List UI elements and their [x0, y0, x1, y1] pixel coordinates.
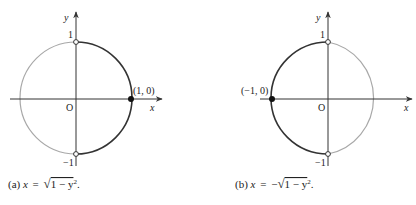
tick-bottom: −1	[63, 157, 74, 168]
origin-label: O	[66, 102, 73, 113]
open-point-bottom	[74, 152, 79, 157]
filled-point	[269, 96, 275, 102]
point-label: (−1, 0)	[241, 85, 268, 97]
panel-a: y x 1 −1 O (1, 0) (a) x = √1 − y2.	[8, 12, 162, 191]
x-axis-label: x	[403, 102, 409, 113]
origin-label: O	[318, 102, 325, 113]
filled-point	[128, 96, 134, 102]
right-semicircle-faded	[328, 42, 374, 154]
open-point-top	[326, 40, 331, 45]
point-label: (1, 0)	[133, 85, 155, 97]
x-axis-label: x	[149, 102, 155, 113]
figure-canvas: y x 1 −1 O (1, 0) (a) x = √1 − y2. y x 1…	[0, 0, 416, 205]
y-axis-label: y	[63, 12, 69, 23]
panel-b: y x 1 −1 O (−1, 0) (b) x = −√1 − y2.	[235, 12, 412, 191]
left-semicircle-highlighted	[271, 42, 328, 154]
open-point-top	[74, 40, 79, 45]
tick-bottom: −1	[315, 157, 326, 168]
caption-b: (b) x = −√1 − y2.	[235, 176, 314, 191]
left-semicircle-faded	[20, 42, 76, 154]
caption-a: (a) x = √1 − y2.	[8, 176, 80, 191]
tick-top: 1	[68, 29, 73, 40]
tick-top: 1	[320, 29, 325, 40]
y-axis-label: y	[315, 12, 321, 23]
open-point-bottom	[326, 152, 331, 157]
right-semicircle-highlighted	[76, 42, 132, 154]
